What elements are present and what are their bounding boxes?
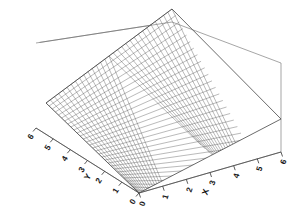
plot-canvas: 40 30 20 10 0 Z — [0, 0, 298, 220]
surface-mesh — [0, 0, 298, 220]
surface-plot-figure: 40 30 20 10 0 Z — [0, 0, 298, 220]
